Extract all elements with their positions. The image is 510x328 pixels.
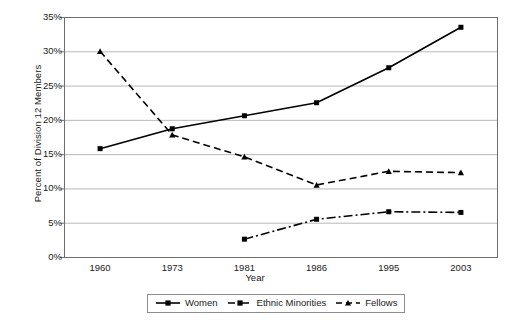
legend-line-sample [227, 297, 253, 309]
legend-line-sample [155, 297, 181, 309]
legend-label: Ethnic Minorities [257, 297, 327, 309]
chart-legend: WomenEthnic MinoritiesFellows [147, 294, 405, 313]
legend-label: Women [185, 297, 218, 309]
legend-item-ethnic-minorities[interactable]: Ethnic Minorities [227, 297, 327, 309]
chart-figure: Percent of Division 12 Members 0%5%10%15… [0, 0, 510, 328]
legend-line-sample [335, 297, 361, 309]
legend-item-women[interactable]: Women [155, 297, 218, 309]
legend-label: Fellows [365, 297, 397, 309]
legend-item-fellows[interactable]: Fellows [335, 297, 397, 309]
x-axis-title: Year [0, 272, 510, 283]
legend-marker [165, 300, 170, 305]
legend-marker [237, 300, 242, 305]
